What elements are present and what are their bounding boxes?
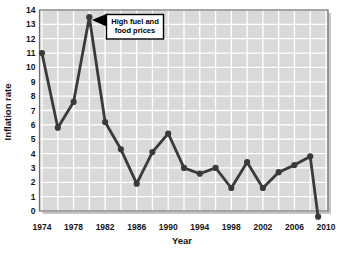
- x-tick-label: 1978: [64, 222, 83, 232]
- y-tick-label: 9: [31, 77, 36, 87]
- y-tick-label: 13: [26, 19, 36, 29]
- data-point: [149, 149, 155, 155]
- y-tick-label: 6: [31, 120, 36, 130]
- y-tick-label: 2: [31, 177, 36, 187]
- y-tick-label: 1: [31, 192, 36, 202]
- x-tick-label: 2002: [253, 222, 272, 232]
- data-point: [228, 185, 234, 191]
- chart-canvas: 01234567891011121314 1974197819821986199…: [0, 0, 342, 254]
- data-point: [197, 171, 203, 177]
- x-tick-label: 2006: [285, 222, 304, 232]
- data-point: [213, 165, 219, 171]
- y-axis-title: Inflation rate: [2, 83, 13, 140]
- data-point: [118, 146, 124, 152]
- data-point: [86, 14, 92, 20]
- x-axis-tick-labels: 1974197819821986199019941998200220062010: [33, 222, 336, 232]
- y-tick-label: 10: [26, 62, 36, 72]
- data-point: [307, 153, 313, 159]
- x-tick-label: 1990: [159, 222, 178, 232]
- data-point: [134, 181, 140, 187]
- data-point: [39, 50, 45, 56]
- inflation-rate-chart: 01234567891011121314 1974197819821986199…: [0, 0, 342, 254]
- y-tick-label: 14: [26, 5, 36, 15]
- y-tick-label: 0: [31, 206, 36, 216]
- y-tick-label: 12: [26, 34, 36, 44]
- x-tick-label: 1986: [127, 222, 146, 232]
- y-tick-label: 5: [31, 134, 36, 144]
- data-point: [55, 125, 61, 131]
- data-point: [276, 169, 282, 175]
- y-tick-label: 7: [31, 106, 36, 116]
- y-tick-label: 3: [31, 163, 36, 173]
- y-tick-label: 11: [27, 48, 36, 58]
- data-point: [244, 159, 250, 165]
- data-point: [291, 162, 297, 168]
- y-tick-label: 4: [31, 149, 36, 159]
- data-point: [165, 130, 171, 136]
- y-tick-label: 8: [31, 91, 36, 101]
- data-point: [315, 214, 321, 220]
- annotation-text-line1: High fuel and: [111, 17, 159, 26]
- y-axis-tick-labels: 01234567891011121314: [26, 5, 36, 216]
- x-axis-title: Year: [172, 235, 192, 246]
- data-point: [181, 165, 187, 171]
- annotation-text-line2: food prices: [115, 26, 155, 35]
- x-tick-label: 1998: [222, 222, 241, 232]
- data-point: [260, 185, 266, 191]
- data-point: [71, 99, 77, 105]
- x-tick-label: 2010: [317, 222, 336, 232]
- x-tick-label: 1994: [190, 222, 209, 232]
- data-point: [102, 119, 108, 125]
- x-tick-label: 1982: [96, 222, 115, 232]
- x-tick-label: 1974: [33, 222, 52, 232]
